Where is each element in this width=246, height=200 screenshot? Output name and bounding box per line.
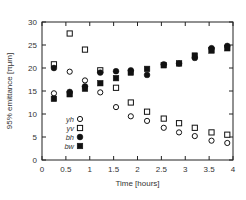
data-point-yh — [128, 114, 133, 119]
data-point-bw — [209, 48, 215, 54]
data-point-bh — [97, 70, 103, 76]
data-point-yv — [192, 125, 197, 130]
data-point-bw — [113, 75, 119, 81]
data-point-bw — [51, 96, 57, 102]
y-tick-label: 25 — [28, 41, 37, 50]
data-point-yh — [192, 133, 197, 138]
legend-marker-bw — [77, 143, 83, 149]
data-point-yv — [161, 116, 166, 121]
y-tick-label: 20 — [28, 64, 37, 73]
legend-label-yv: yv — [66, 124, 76, 133]
data-point-bw — [67, 91, 73, 97]
data-point-yv — [128, 100, 133, 105]
data-point-yv — [225, 132, 230, 137]
data-point-yv — [113, 85, 118, 90]
data-point-bh — [113, 68, 119, 74]
data-point-yh — [82, 78, 87, 83]
legend-label-bh: bh — [66, 133, 74, 142]
x-tick-label: 2.5 — [156, 165, 168, 174]
x-tick-label: 2 — [135, 165, 140, 174]
data-point-yh — [209, 138, 214, 143]
legend-marker-yh — [77, 116, 82, 121]
emittance-chart: 00.511.522.533.54051015202530 yhyvbhbw T… — [0, 0, 246, 200]
x-axis-label: Time [hours] — [115, 179, 159, 188]
legend-marker-bh — [77, 134, 83, 140]
y-tick-label: 15 — [28, 87, 37, 96]
data-point-yh — [225, 140, 230, 145]
x-tick-label: 1 — [88, 165, 93, 174]
data-point-bw — [192, 53, 198, 59]
y-axis-label: 95% emittance [πμm] — [5, 53, 14, 129]
legend-label-yh: yh — [65, 115, 74, 124]
axes: 00.511.522.533.54051015202530 — [28, 18, 236, 174]
data-point-yh — [51, 91, 56, 96]
data-point-yv — [82, 47, 87, 52]
data-point-yh — [144, 118, 149, 123]
data-point-bw — [144, 66, 150, 72]
data-point-yh — [113, 105, 118, 110]
data-point-bw — [128, 70, 134, 76]
data-point-yh — [98, 90, 103, 95]
x-tick-label: 1.5 — [108, 165, 120, 174]
data-point-yv — [209, 130, 214, 135]
data-point-yv — [144, 109, 149, 114]
legend-label-bw: bw — [64, 142, 74, 151]
x-tick-label: 3 — [183, 165, 188, 174]
legend-marker-yv — [77, 125, 82, 130]
legend: yhyvbhbw — [64, 115, 82, 151]
x-tick-label: 3.5 — [204, 165, 216, 174]
y-tick-label: 10 — [28, 110, 37, 119]
x-tick-label: 0.5 — [60, 165, 72, 174]
data-point-yh — [176, 130, 181, 135]
data-point-bw — [97, 80, 103, 86]
data-point-bw — [82, 86, 88, 92]
data-point-yh — [67, 69, 72, 74]
data-point-bh — [51, 65, 57, 71]
y-tick-label: 5 — [33, 133, 38, 142]
data-point-yv — [176, 121, 181, 126]
x-tick-label: 0 — [40, 165, 45, 174]
y-tick-label: 30 — [28, 18, 37, 27]
y-tick-label: 0 — [33, 156, 38, 165]
data-point-yh — [161, 125, 166, 130]
data-point-bw — [176, 61, 182, 67]
data-point-bh — [144, 72, 150, 78]
x-tick-label: 4 — [231, 165, 236, 174]
data-point-bw — [161, 62, 167, 68]
data-point-bw — [224, 45, 230, 51]
data-point-yv — [67, 31, 72, 36]
